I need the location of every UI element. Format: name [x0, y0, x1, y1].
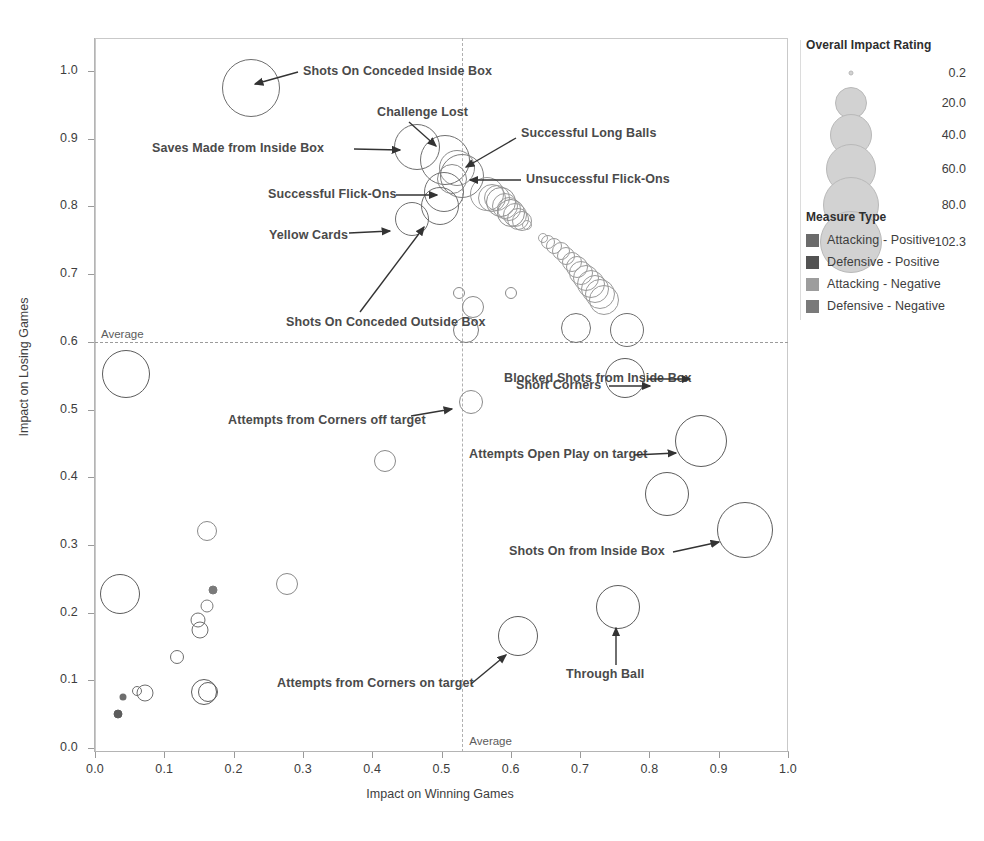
y-axis-title: Impact on Losing Games: [17, 257, 31, 477]
y-tick: [88, 139, 94, 140]
size-legend-label: 20.0: [906, 96, 966, 110]
measure-type-label: Defensive - Negative: [827, 299, 945, 313]
data-point-bubble[interactable]: [459, 390, 483, 414]
y-tick: [88, 748, 94, 749]
y-tick: [88, 613, 94, 614]
x-tick-label: 0.7: [557, 762, 603, 776]
measure-type-row[interactable]: Attacking - Negative: [806, 274, 981, 294]
annotation-label: Challenge Lost: [377, 105, 468, 119]
x-tick-label: 0.9: [696, 762, 742, 776]
data-point-bubble[interactable]: [505, 287, 517, 299]
x-tick-label: 0.3: [280, 762, 326, 776]
x-tick: [649, 752, 650, 758]
data-point-bubble[interactable]: [675, 415, 727, 467]
data-point-bubble[interactable]: [120, 694, 127, 701]
x-tick: [719, 752, 720, 758]
annotation-label: Short Corners: [516, 378, 601, 392]
measure-type-label: Attacking - Positive: [827, 233, 935, 247]
data-point-bubble[interactable]: [198, 682, 218, 702]
data-point-bubble[interactable]: [208, 586, 217, 595]
x-tick-label: 1.0: [765, 762, 811, 776]
data-point-bubble[interactable]: [596, 585, 640, 629]
y-tick: [88, 410, 94, 411]
x-tick-label: 0.5: [419, 762, 465, 776]
y-tick-label: 0.8: [38, 198, 78, 212]
y-tick: [88, 71, 94, 72]
annotation-label: Attempts from Corners on target: [277, 676, 474, 690]
measure-type-label: Attacking - Negative: [827, 277, 941, 291]
annotation-label: Successful Flick-Ons: [268, 187, 396, 201]
size-legend-label: 0.2: [906, 66, 966, 80]
data-point-bubble[interactable]: [222, 59, 280, 117]
x-tick: [303, 752, 304, 758]
measure-type-row[interactable]: Attacking - Positive: [806, 230, 981, 250]
legend-divider: [800, 40, 801, 320]
data-point-bubble[interactable]: [197, 521, 217, 541]
measure-type-entries: Attacking - PositiveDefensive - Positive…: [806, 230, 981, 316]
annotation-label: Through Ball: [566, 667, 644, 681]
y-tick: [88, 680, 94, 681]
data-point-bubble[interactable]: [276, 573, 298, 595]
size-legend-title: Overall Impact Rating: [806, 38, 981, 52]
size-legend-label: 40.0: [906, 128, 966, 142]
x-tick: [164, 752, 165, 758]
annotation-label: Shots On Conceded Inside Box: [303, 64, 492, 78]
y-tick-label: 0.3: [38, 537, 78, 551]
data-point-bubble[interactable]: [395, 202, 429, 236]
y-tick-label: 0.9: [38, 131, 78, 145]
size-legend-bubble: [849, 71, 854, 76]
data-point-bubble[interactable]: [113, 710, 122, 719]
data-point-bubble[interactable]: [100, 574, 140, 614]
measure-type-swatch: [806, 256, 819, 269]
data-point-bubble[interactable]: [645, 472, 689, 516]
x-axis-title: Impact on Winning Games: [0, 787, 880, 801]
data-point-bubble[interactable]: [201, 599, 214, 612]
y-tick: [88, 477, 94, 478]
measure-type-swatch: [806, 234, 819, 247]
data-point-bubble[interactable]: [102, 350, 150, 398]
data-point-bubble[interactable]: [192, 622, 209, 639]
x-tick-label: 0.2: [211, 762, 257, 776]
x-tick: [95, 752, 96, 758]
y-tick-label: 0.4: [38, 469, 78, 483]
data-point-bubble[interactable]: [132, 686, 142, 696]
x-tick-label: 0.8: [626, 762, 672, 776]
x-tick: [234, 752, 235, 758]
y-tick-label: 0.6: [38, 334, 78, 348]
size-legend-label: 60.0: [906, 162, 966, 176]
data-point-bubble[interactable]: [610, 313, 644, 347]
annotation-label: Shots On from Inside Box: [509, 544, 665, 558]
measure-type-legend: Measure Type Attacking - PositiveDefensi…: [806, 210, 981, 318]
x-tick-label: 0.6: [488, 762, 534, 776]
annotation-label: Successful Long Balls: [521, 126, 656, 140]
annotation-label: Unsuccessful Flick-Ons: [526, 172, 670, 186]
annotation-label: Attempts Open Play on target: [469, 447, 648, 461]
x-tick: [580, 752, 581, 758]
y-tick: [88, 342, 94, 343]
y-tick: [88, 545, 94, 546]
data-point-bubble[interactable]: [453, 287, 465, 299]
y-tick-label: 0.0: [38, 740, 78, 754]
data-point-bubble[interactable]: [522, 220, 532, 230]
measure-type-row[interactable]: Defensive - Positive: [806, 252, 981, 272]
scatter-chart: 0.00.10.20.30.40.50.60.70.80.91.00.00.10…: [0, 0, 984, 841]
data-point-bubble[interactable]: [717, 502, 773, 558]
x-tick: [788, 752, 789, 758]
data-point-bubble[interactable]: [498, 616, 538, 656]
measure-type-row[interactable]: Defensive - Negative: [806, 296, 981, 316]
y-tick-label: 0.5: [38, 402, 78, 416]
data-point-bubble[interactable]: [374, 450, 396, 472]
data-point-bubble[interactable]: [589, 285, 619, 315]
data-point-bubble[interactable]: [561, 313, 591, 343]
y-tick-label: 1.0: [38, 63, 78, 77]
y-tick-label: 0.1: [38, 672, 78, 686]
annotation-label: Saves Made from Inside Box: [152, 141, 324, 155]
y-tick-label: 0.2: [38, 605, 78, 619]
data-point-bubble[interactable]: [170, 650, 184, 664]
y-tick: [88, 274, 94, 275]
measure-type-swatch: [806, 278, 819, 291]
annotation-label: Yellow Cards: [269, 228, 348, 242]
annotation-label: Attempts from Corners off target: [228, 413, 426, 427]
x-tick: [442, 752, 443, 758]
x-tick-label: 0.1: [141, 762, 187, 776]
